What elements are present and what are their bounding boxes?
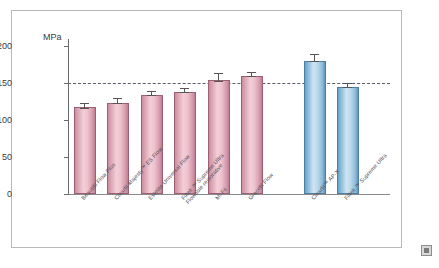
y-tick-label-100: 100 [0, 116, 12, 125]
y-tick-label-150: 150 [0, 79, 12, 88]
error-bar-cap-top [180, 88, 189, 89]
error-bar-cap-bottom [247, 76, 256, 77]
error-bar [218, 73, 219, 81]
error-bar-cap-top [214, 73, 223, 74]
error-bar-cap-bottom [180, 92, 189, 93]
error-bar-cap-top [147, 91, 156, 92]
bar [304, 61, 326, 194]
bar-group [74, 11, 96, 194]
chart-frame: MPa 050100150200 Beautifil Flow PlusClea… [11, 10, 402, 248]
bar [337, 87, 359, 194]
error-bar-cap-bottom [343, 87, 352, 88]
y-tick-mark-200 [64, 46, 69, 47]
error-bar [251, 72, 252, 78]
error-bar-cap-bottom [80, 108, 89, 109]
error-bar-cap-top [343, 83, 352, 84]
error-bar [314, 54, 315, 62]
error-bar-cap-top [113, 98, 122, 99]
error-bar-cap-top [310, 54, 319, 55]
image-placeholder-glyph [424, 248, 429, 253]
error-bar [347, 83, 348, 88]
bar-group [304, 11, 326, 194]
error-bar [84, 103, 85, 109]
y-axis-unit-label: MPa [43, 33, 62, 42]
bar [241, 76, 263, 194]
error-bar-cap-bottom [147, 95, 156, 96]
y-tick-label-200: 200 [0, 42, 12, 51]
figure-root: MPa 050100150200 Beautifil Flow PlusClea… [0, 0, 439, 268]
error-bar [151, 91, 152, 96]
error-bar-cap-top [247, 72, 256, 73]
y-tick-mark-150 [64, 83, 69, 84]
bar [107, 103, 129, 194]
y-tick-mark-50 [64, 157, 69, 158]
error-bar-cap-bottom [113, 103, 122, 104]
y-axis-line [68, 39, 69, 195]
y-tick-mark-0 [64, 194, 69, 195]
bar-group [337, 11, 359, 194]
y-tick-label-50: 50 [0, 153, 12, 162]
y-tick-label-0: 0 [0, 190, 12, 199]
error-bar [117, 98, 118, 104]
error-bar-cap-bottom [310, 61, 319, 62]
error-bar-cap-bottom [214, 81, 223, 82]
error-bar [184, 88, 185, 93]
bar-group [241, 11, 263, 194]
image-placeholder-icon [421, 245, 432, 256]
bar [174, 92, 196, 194]
y-tick-mark-100 [64, 120, 69, 121]
bar [141, 95, 163, 194]
error-bar-cap-top [80, 103, 89, 104]
